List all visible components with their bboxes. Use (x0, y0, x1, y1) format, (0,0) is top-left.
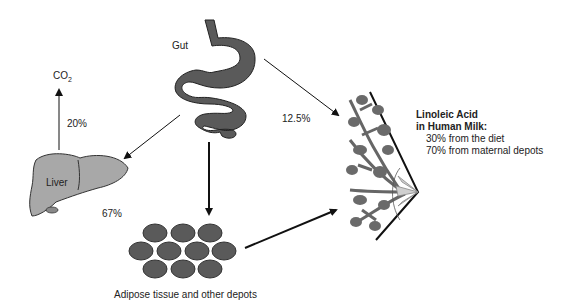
milk-title-line1: Linoleic Acid (416, 109, 478, 120)
adipose-label: Adipose tissue and other depots (114, 289, 257, 300)
co2-subscript: 2 (68, 76, 72, 83)
gut-label: Gut (172, 40, 188, 51)
adipose-cells-icon (129, 224, 236, 278)
gut-icon (175, 20, 255, 138)
milk-diet-line: 30% from the diet (426, 133, 504, 144)
oxidation-percent: 20% (67, 118, 87, 129)
arrow-gut-to-milk (264, 59, 338, 115)
milk-direct-percent: 12.5% (282, 113, 310, 124)
mammary-gland-icon (346, 92, 420, 240)
liver-label: Liver (46, 177, 68, 188)
co2-main-text: CO (53, 70, 68, 81)
arrow-adipose-to-milk (245, 210, 336, 248)
arrow-gut-to-liver (125, 115, 180, 158)
milk-title-line2: in Human Milk: (416, 121, 487, 132)
co2-label: CO2 (53, 70, 72, 83)
liver-icon (30, 154, 128, 216)
milk-depot-line: 70% from maternal depots (426, 145, 543, 156)
liver-percent: 67% (102, 208, 122, 219)
